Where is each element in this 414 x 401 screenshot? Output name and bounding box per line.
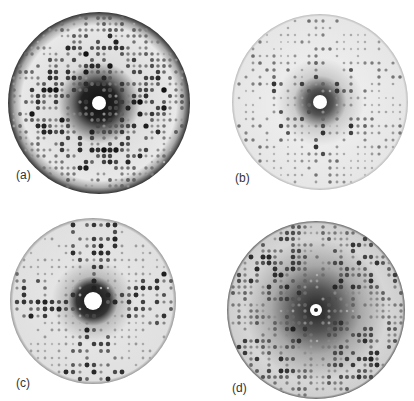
panel-label-d: (d) [232, 381, 247, 395]
diffraction-pattern-d [0, 0, 414, 401]
